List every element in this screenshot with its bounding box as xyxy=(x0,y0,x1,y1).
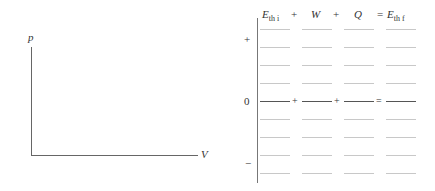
bar-gridline xyxy=(386,47,416,48)
bar-gridline xyxy=(302,29,332,30)
bar-gridline xyxy=(344,65,374,66)
zero-row-plus-1: + xyxy=(292,95,298,106)
zero-line-segment xyxy=(302,101,332,102)
pressure-axis-label: p xyxy=(28,31,34,43)
bar-gridline xyxy=(386,65,416,66)
zero-line-segment xyxy=(260,101,290,102)
volume-axis-label: V xyxy=(201,148,208,160)
header-final-thermal-energy: Eth f xyxy=(387,8,405,23)
zero-row-plus-2: + xyxy=(334,95,340,106)
bar-gridline xyxy=(260,47,290,48)
bar-gridline xyxy=(344,173,374,174)
bar-gridline xyxy=(386,119,416,120)
bar-gridline xyxy=(386,29,416,30)
negative-label: − xyxy=(245,157,251,169)
header-plus-2: + xyxy=(333,8,339,20)
bar-gridline xyxy=(302,137,332,138)
pressure-axis xyxy=(31,47,32,155)
header-equals: = xyxy=(377,8,383,20)
header-heat: Q xyxy=(354,8,362,20)
bar-gridline xyxy=(302,47,332,48)
header-work: W xyxy=(311,8,320,20)
bar-gridline xyxy=(260,119,290,120)
bar-gridline xyxy=(344,47,374,48)
bar-gridline xyxy=(260,173,290,174)
bar-gridline xyxy=(344,29,374,30)
bar-gridline xyxy=(260,29,290,30)
bar-gridline xyxy=(302,65,332,66)
zero-line-segment xyxy=(344,101,374,102)
bar-gridline xyxy=(260,83,290,84)
bar-gridline xyxy=(302,173,332,174)
zero-label: 0 xyxy=(244,95,250,107)
bar-gridline xyxy=(386,83,416,84)
header-plus-1: + xyxy=(291,8,297,20)
bar-gridline xyxy=(344,137,374,138)
zero-row-equals: = xyxy=(376,95,382,106)
bar-gridline xyxy=(344,119,374,120)
bar-gridline xyxy=(302,83,332,84)
bar-gridline xyxy=(386,137,416,138)
bar-gridline xyxy=(344,155,374,156)
bar-gridline xyxy=(260,137,290,138)
bar-gridline xyxy=(302,119,332,120)
bar-gridline xyxy=(344,83,374,84)
header-initial-thermal-energy: Eth i xyxy=(262,8,279,23)
zero-line-segment xyxy=(386,101,416,102)
bar-gridline xyxy=(386,173,416,174)
positive-label: + xyxy=(244,33,250,45)
bar-gridline xyxy=(260,65,290,66)
volume-axis xyxy=(31,155,198,156)
bar-gridline xyxy=(260,155,290,156)
bar-gridline xyxy=(386,155,416,156)
energy-axis xyxy=(257,18,258,183)
bar-gridline xyxy=(302,155,332,156)
